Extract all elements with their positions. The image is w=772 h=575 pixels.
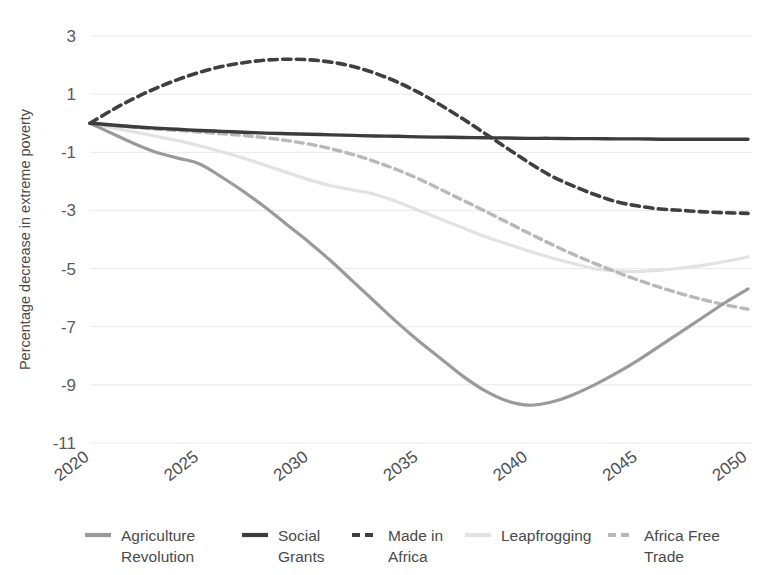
legend-item[interactable]: Africa FreeTrade	[608, 527, 720, 565]
legend-item[interactable]: SocialGrants	[242, 527, 325, 565]
x-tick-label: 2035	[380, 447, 422, 485]
y-tick-label: -11	[53, 434, 76, 453]
legend-label-line2: Grants	[278, 548, 325, 565]
legend-label: Social	[278, 527, 320, 544]
legend-item[interactable]: Leapfrogging	[465, 527, 592, 544]
y-tick-label: -5	[61, 260, 76, 279]
gridlines	[90, 36, 752, 443]
series-line-social-grants	[90, 123, 748, 139]
chart-legend: AgricultureRevolutionSocialGrantsMade in…	[85, 527, 720, 565]
chart-container: 31-1-3-5-7-9-11 202020252030203520402045…	[0, 0, 772, 575]
y-axis-title: Percentage decrease in extreme poverty	[17, 108, 33, 370]
series-line-leapfrogging	[90, 123, 748, 271]
x-tick-label: 2045	[599, 447, 641, 485]
y-tick-label: -3	[61, 201, 76, 220]
x-tick-label: 2030	[270, 447, 312, 485]
legend-item[interactable]: Made inAfrica	[352, 527, 443, 565]
legend-label: Africa Free	[644, 527, 720, 544]
poverty-decrease-line-chart: 31-1-3-5-7-9-11 202020252030203520402045…	[0, 0, 772, 575]
legend-label: Leapfrogging	[501, 527, 592, 544]
legend-item[interactable]: AgricultureRevolution	[85, 527, 195, 565]
x-tick-label: 2025	[160, 447, 202, 485]
y-tick-label: -1	[61, 143, 76, 162]
legend-label-line2: Africa	[388, 548, 428, 565]
legend-label-line2: Trade	[644, 548, 684, 565]
legend-label: Made in	[388, 527, 443, 544]
series-lines	[90, 59, 748, 405]
series-line-agriculture-revolution	[90, 123, 748, 405]
y-tick-label: -9	[61, 376, 76, 395]
legend-label: Agriculture	[121, 527, 195, 544]
y-axis-tick-labels: 31-1-3-5-7-9-11	[53, 27, 76, 453]
y-tick-label: -7	[61, 318, 76, 337]
x-tick-label: 2050	[709, 447, 751, 485]
y-tick-label: 3	[67, 27, 76, 46]
series-line-africa-free-trade	[90, 123, 748, 309]
x-tick-label: 2040	[489, 447, 531, 485]
legend-label-line2: Revolution	[121, 548, 194, 565]
y-tick-label: 1	[67, 85, 76, 104]
x-axis-tick-labels: 2020202520302035204020452050	[51, 447, 751, 485]
